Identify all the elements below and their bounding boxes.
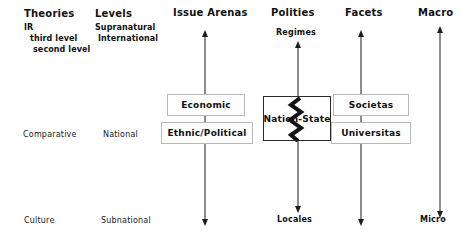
box-universitas[interactable]: Universitas: [331, 122, 411, 144]
box-ethnic-political-label: Ethnic/Political: [167, 128, 246, 138]
arrowhead-down-facets: [358, 219, 364, 226]
arrowhead-down-polities: [295, 206, 301, 213]
box-ethnic-political[interactable]: Ethnic/Political: [161, 122, 253, 144]
column-heading-facets: Facets: [345, 7, 383, 18]
row-label-subnational: Subnational: [101, 216, 151, 225]
levels-item-supranatural: Supranatural: [95, 23, 155, 32]
box-nation-state[interactable]: Nation-State: [263, 96, 331, 141]
box-societas[interactable]: Societas: [333, 94, 409, 116]
axis-shaft-macro-micro: [440, 32, 441, 212]
box-nation-state-label: Nation-State: [264, 114, 331, 124]
row-label-comparative: Comparative: [23, 130, 77, 139]
polities-bottom-label: Locales: [277, 215, 312, 224]
theories-item-second-level: second level: [33, 45, 90, 54]
column-heading-theories: Theories: [24, 8, 74, 19]
diagram-canvas: Theories Levels Issue Arenas Polities Fa…: [0, 0, 467, 243]
box-economic-label: Economic: [181, 100, 231, 110]
box-economic[interactable]: Economic: [167, 94, 245, 116]
column-heading-issue-arenas: Issue Arenas: [173, 7, 248, 18]
levels-item-international: International: [98, 34, 158, 43]
row-label-culture: Culture: [24, 216, 55, 225]
theories-item-third-level: third level: [30, 34, 77, 43]
row-label-national: National: [103, 130, 138, 139]
scale-bottom-label: Micro: [420, 215, 446, 224]
column-heading-polities: Polities: [271, 7, 315, 18]
arrowhead-down-issue-arenas: [202, 219, 208, 226]
polities-top-label: Regimes: [276, 28, 316, 37]
box-universitas-label: Universitas: [341, 128, 401, 138]
box-societas-label: Societas: [349, 100, 394, 110]
theories-item-ir: IR: [24, 23, 33, 32]
axis-macro-micro: [433, 26, 447, 218]
column-heading-macro: Macro: [418, 7, 453, 18]
column-heading-levels: Levels: [95, 8, 132, 19]
